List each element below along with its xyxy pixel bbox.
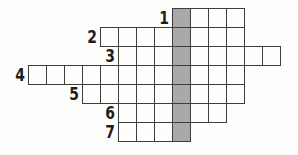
puzzle-cell[interactable]	[100, 27, 119, 47]
answer-column-cell[interactable]	[172, 8, 191, 28]
puzzle-cell[interactable]	[190, 65, 209, 85]
answer-column-cell[interactable]	[172, 103, 191, 123]
puzzle-cell[interactable]	[226, 8, 245, 28]
puzzle-cell[interactable]	[208, 65, 227, 85]
puzzle-cell[interactable]	[208, 27, 227, 47]
puzzle-cell[interactable]	[190, 8, 209, 28]
puzzle-cell[interactable]	[244, 46, 263, 66]
puzzle-cell[interactable]	[28, 65, 47, 85]
puzzle-cell[interactable]	[118, 122, 137, 142]
puzzle-cell[interactable]	[118, 46, 137, 66]
puzzle-cell[interactable]	[190, 46, 209, 66]
puzzle-cell[interactable]	[118, 27, 137, 47]
puzzle-cell[interactable]	[154, 46, 173, 66]
clue-number-2: 2	[84, 27, 97, 46]
clue-number-5: 5	[66, 84, 79, 103]
puzzle-cell[interactable]	[208, 103, 227, 123]
puzzle-cell[interactable]	[208, 84, 227, 104]
puzzle-cell[interactable]	[154, 27, 173, 47]
answer-column-cell[interactable]	[172, 65, 191, 85]
puzzle-cell[interactable]	[118, 84, 137, 104]
crossword-puzzle: 1234567	[0, 0, 298, 155]
puzzle-cell[interactable]	[136, 84, 155, 104]
puzzle-cell[interactable]	[136, 122, 155, 142]
puzzle-cell[interactable]	[154, 65, 173, 85]
puzzle-cell[interactable]	[226, 27, 245, 47]
puzzle-cell[interactable]	[118, 103, 137, 123]
puzzle-cell[interactable]	[136, 46, 155, 66]
puzzle-cell[interactable]	[208, 8, 227, 28]
puzzle-cell[interactable]	[154, 103, 173, 123]
puzzle-cell[interactable]	[190, 84, 209, 104]
answer-column-cell[interactable]	[172, 27, 191, 47]
puzzle-cell[interactable]	[154, 122, 173, 142]
answer-column-cell[interactable]	[172, 46, 191, 66]
answer-column-cell[interactable]	[172, 84, 191, 104]
puzzle-cell[interactable]	[262, 46, 281, 66]
clue-number-1: 1	[156, 8, 169, 27]
clue-number-3: 3	[102, 46, 115, 65]
clue-number-4: 4	[12, 65, 25, 84]
puzzle-cell[interactable]	[154, 84, 173, 104]
puzzle-cell[interactable]	[100, 84, 119, 104]
puzzle-cell[interactable]	[208, 46, 227, 66]
clue-number-7: 7	[102, 122, 115, 141]
puzzle-cell[interactable]	[190, 27, 209, 47]
puzzle-cell[interactable]	[136, 65, 155, 85]
puzzle-cell[interactable]	[118, 65, 137, 85]
answer-column-cell[interactable]	[172, 122, 191, 142]
puzzle-cell[interactable]	[64, 65, 83, 85]
puzzle-cell[interactable]	[226, 84, 245, 104]
puzzle-cell[interactable]	[226, 46, 245, 66]
puzzle-cell[interactable]	[226, 65, 245, 85]
puzzle-cell[interactable]	[190, 103, 209, 123]
puzzle-cell[interactable]	[82, 65, 101, 85]
puzzle-cell[interactable]	[136, 27, 155, 47]
puzzle-cell[interactable]	[82, 84, 101, 104]
puzzle-cell[interactable]	[136, 103, 155, 123]
puzzle-cell[interactable]	[46, 65, 65, 85]
puzzle-cell[interactable]	[100, 65, 119, 85]
clue-number-6: 6	[102, 103, 115, 122]
